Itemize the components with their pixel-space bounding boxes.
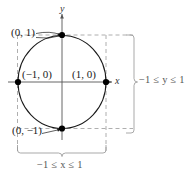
x-axis-label: x bbox=[115, 76, 119, 86]
y-range-label: −1 ≤ y ≤ 1 bbox=[139, 75, 185, 86]
point-label-0-minus1: (0, −1) bbox=[12, 125, 42, 136]
point-label-minus1-0: (−1, 0) bbox=[22, 69, 52, 80]
unit-circle-figure: (0, 1) (−1, 0) (1, 0) (0, −1) y x −1 ≤ y… bbox=[0, 0, 195, 184]
y-axis-label: y bbox=[60, 4, 64, 14]
leader-line-top bbox=[36, 32, 61, 35]
label-leader-lines bbox=[36, 32, 62, 133]
point-minus1-0 bbox=[15, 79, 21, 85]
y-range-bracket bbox=[126, 35, 138, 133]
leader-line-bottom bbox=[42, 130, 59, 134]
x-range-label: −1 ≤ x ≤ 1 bbox=[37, 160, 83, 171]
point-1-0 bbox=[103, 79, 109, 85]
point-label-0-1: (0, 1) bbox=[11, 27, 35, 38]
y-axis-arrowhead bbox=[60, 14, 64, 19]
x-range-bracket bbox=[18, 145, 107, 157]
point-0-minus1 bbox=[59, 125, 65, 131]
point-label-1-0: (1, 0) bbox=[72, 69, 96, 80]
point-0-1 bbox=[59, 32, 65, 38]
